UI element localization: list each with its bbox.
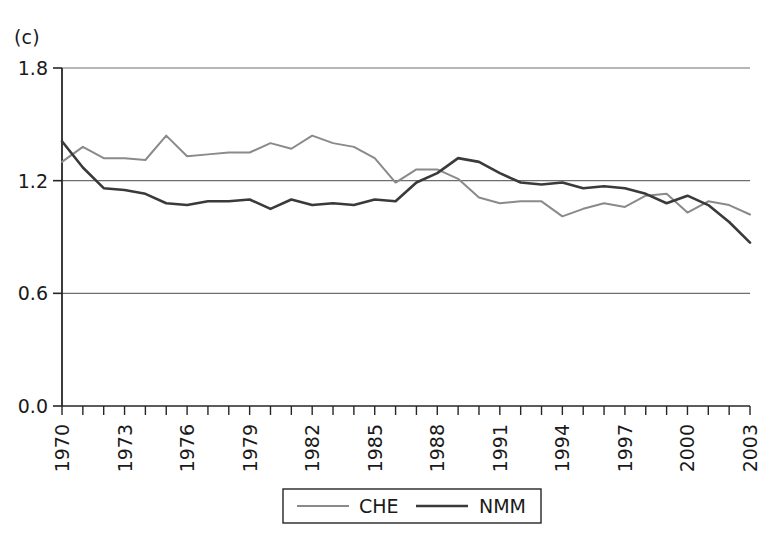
y-tick-label-0.0: 0.0 — [18, 395, 48, 417]
line-chart: 0.00.61.21.8 197019731976197919821985198… — [0, 0, 773, 535]
series-line-nmm — [62, 141, 750, 242]
panel-label: (c) — [14, 26, 40, 48]
x-tick-label-1970: 1970 — [51, 424, 73, 472]
x-tick-label-1994: 1994 — [551, 424, 573, 472]
y-tick-label-1.2: 1.2 — [18, 170, 48, 192]
x-tick-labels-group: 1970197319761979198219851988199119941997… — [51, 424, 761, 472]
y-tick-label-0.6: 0.6 — [18, 282, 48, 304]
y-tick-label-1.8: 1.8 — [18, 57, 48, 79]
y-tick-labels-group: 0.00.61.21.8 — [18, 57, 48, 417]
x-tick-label-1988: 1988 — [426, 424, 448, 472]
data-series-group — [62, 136, 750, 243]
x-tick-label-1973: 1973 — [114, 424, 136, 472]
x-tick-label-1976: 1976 — [176, 424, 198, 472]
axis-lines-group — [62, 68, 750, 406]
x-tick-label-1982: 1982 — [301, 424, 323, 472]
x-tick-label-2003: 2003 — [739, 424, 761, 472]
gridlines-group — [62, 68, 750, 293]
legend-label-nmm: NMM — [479, 495, 526, 517]
chart-legend: CHENMM — [283, 489, 541, 523]
chart-figure: (c) 0.00.61.21.8 19701973197619791982198… — [0, 0, 773, 535]
x-tick-label-2000: 2000 — [676, 424, 698, 472]
series-line-che — [62, 136, 750, 217]
legend-label-che: CHE — [359, 495, 399, 517]
x-tick-label-1997: 1997 — [614, 424, 636, 472]
x-tick-marks-group — [62, 406, 750, 415]
x-tick-label-1991: 1991 — [489, 424, 511, 472]
x-tick-label-1985: 1985 — [364, 424, 386, 472]
x-tick-label-1979: 1979 — [239, 424, 261, 472]
y-tick-marks-group — [53, 68, 62, 406]
